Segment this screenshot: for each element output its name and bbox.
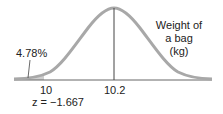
z-score-label: z = −1.667	[32, 96, 84, 108]
tick-label-mean: 10.2	[104, 84, 125, 96]
axis-title-line1: Weight of	[148, 19, 210, 31]
tick-label-10: 10	[40, 84, 52, 96]
axis-title-line2: a bag	[148, 32, 210, 44]
tail-percent-label: 4.78%	[16, 47, 47, 59]
axis-title-line3: (kg)	[148, 45, 210, 57]
tail-pointer	[28, 60, 30, 78]
